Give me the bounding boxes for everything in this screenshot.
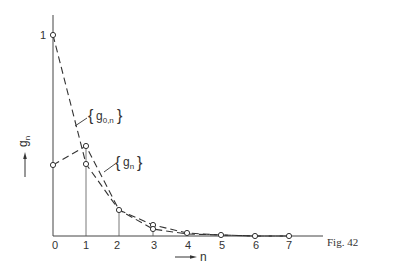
y-axis-label: gn bbox=[16, 136, 32, 147]
svg-text:0: 0 bbox=[52, 239, 58, 251]
svg-text:gn: gn bbox=[123, 155, 134, 171]
svg-text:g0,n: g0,n bbox=[96, 109, 114, 125]
leader-g0n bbox=[75, 118, 87, 126]
svg-text:{: { bbox=[88, 107, 94, 124]
svg-text:}: } bbox=[117, 107, 123, 124]
markers bbox=[50, 32, 291, 238]
svg-text:4: 4 bbox=[185, 239, 191, 251]
svg-text:}: } bbox=[137, 154, 143, 171]
series-gn-line bbox=[53, 146, 289, 236]
svg-text:1: 1 bbox=[83, 239, 89, 251]
svg-text:6: 6 bbox=[253, 239, 259, 251]
svg-text:gn: gn bbox=[16, 136, 32, 147]
figure-label: Fig. 42 bbox=[327, 236, 358, 248]
chart: 0 1 2 3 4 5 6 7 1 n gn { g0,n } { gn } bbox=[0, 0, 395, 275]
svg-text:3: 3 bbox=[151, 239, 157, 251]
label-g0n: { g0,n } bbox=[88, 107, 123, 125]
label-gn: { gn } bbox=[115, 154, 143, 171]
series-g0n-line bbox=[53, 35, 289, 236]
svg-text:7: 7 bbox=[286, 239, 292, 251]
y-tick-one: 1 bbox=[40, 29, 46, 41]
x-tick-labels: 0 1 2 3 4 5 6 7 bbox=[52, 239, 292, 251]
svg-text:2: 2 bbox=[114, 239, 120, 251]
x-axis-label: n bbox=[200, 250, 207, 264]
leader-gn bbox=[104, 164, 115, 172]
svg-text:{: { bbox=[115, 154, 121, 171]
svg-text:5: 5 bbox=[219, 239, 225, 251]
